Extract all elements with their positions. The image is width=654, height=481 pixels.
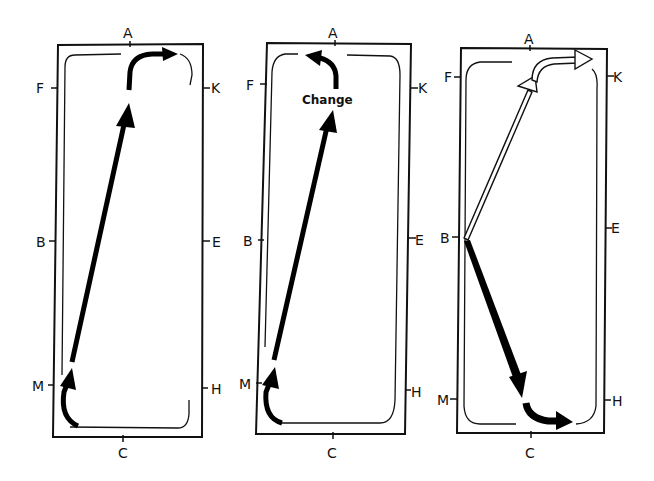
marker-c: C [327, 445, 337, 461]
arena-1-track-left [62, 54, 121, 375]
marker-a: A [123, 25, 133, 41]
marker-c: C [118, 445, 128, 461]
marker-h: H [612, 393, 623, 409]
arena-diagrams: A F K B E M H C A F K B E M [0, 0, 654, 481]
marker-m: M [437, 392, 449, 408]
marker-h: H [411, 384, 422, 400]
marker-e: E [611, 220, 620, 236]
marker-e: E [415, 232, 424, 248]
marker-k: K [613, 69, 623, 85]
arena-2-diagonal-arrow [319, 110, 337, 133]
arena-3-solid-diagonal [464, 240, 523, 383]
arena-1-boundary [53, 44, 203, 437]
arena-3-hollow-diagonal [464, 90, 532, 240]
arena-2-turn-arrow [266, 382, 282, 423]
arena-2-track-left [265, 54, 298, 347]
marker-b: B [36, 234, 46, 250]
marker-f: F [246, 77, 254, 93]
arena-3-track-left [464, 62, 516, 424]
marker-c: C [525, 445, 535, 461]
marker-b: B [243, 233, 253, 249]
arena-3-solid-arrowhead [556, 411, 573, 430]
marker-a: A [524, 31, 534, 47]
arena-3: A F K B E M H C [437, 31, 623, 461]
arena-3-hollow-arrowhead [575, 50, 592, 69]
change-label: Change [302, 93, 353, 107]
arena-2-track-right [278, 55, 400, 423]
arena-1-diagonal-arrow [116, 103, 135, 128]
arena-2-change-arrow [305, 50, 322, 66]
marker-k: K [418, 80, 428, 96]
arena-3-boundary [457, 48, 607, 433]
marker-h: H [211, 381, 222, 397]
marker-k: K [211, 80, 221, 96]
arena-1-top-arrow [162, 47, 178, 61]
marker-e: E [212, 234, 221, 250]
arena-3-track-right [576, 69, 597, 424]
marker-f: F [444, 69, 452, 85]
marker-a: A [328, 25, 338, 41]
arena-1-track-topright [180, 54, 192, 85]
arena-1-track-bottom [70, 400, 189, 428]
arena-2: A F K B E M H C Change [239, 25, 428, 461]
marker-f: F [36, 80, 44, 96]
marker-m: M [32, 378, 44, 394]
marker-m: M [239, 376, 251, 392]
arena-1: A F K B E M H C [32, 25, 222, 461]
marker-b: B [440, 230, 450, 246]
